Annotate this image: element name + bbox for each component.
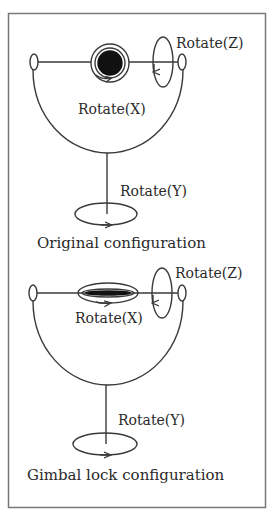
gimbal-lock-figure: Rotate(Z) Rotate(X) Rotate(Y) Original c… bbox=[0, 0, 271, 515]
label-rotate-y-original: Rotate(Y) bbox=[120, 183, 187, 199]
label-rotate-z-original: Rotate(Z) bbox=[176, 35, 244, 51]
rotor-disc-edge-icon bbox=[86, 291, 130, 295]
left-bearing-icon bbox=[29, 285, 37, 301]
y-rotation-loop bbox=[75, 203, 137, 225]
caption-original: Original configuration bbox=[37, 234, 206, 252]
rotor-disc-icon bbox=[98, 51, 122, 75]
label-rotate-x-gimbal: Rotate(X) bbox=[75, 310, 143, 326]
label-rotate-y-gimbal: Rotate(Y) bbox=[118, 412, 185, 428]
right-bearing-icon bbox=[178, 54, 186, 70]
figure-border bbox=[9, 14, 266, 508]
caption-gimbal-lock: Gimbal lock configuration bbox=[27, 466, 225, 484]
gimbal-diagram-canvas: Rotate(Z) Rotate(X) Rotate(Y) Original c… bbox=[0, 0, 271, 515]
label-rotate-x-original: Rotate(X) bbox=[78, 101, 146, 117]
right-bearing-icon bbox=[178, 285, 186, 301]
left-bearing-icon bbox=[30, 54, 38, 70]
y-rotation-loop bbox=[73, 433, 137, 455]
label-rotate-z-gimbal: Rotate(Z) bbox=[175, 265, 243, 281]
